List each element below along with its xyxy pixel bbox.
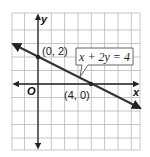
point-a-label: (0, 2) [42,45,68,57]
point-b-label: (4, 0) [64,89,90,101]
coordinate-graph: x + 2y = 4 y x O (0, 2) (4, 0) [0,0,150,157]
y-axis-label: y [40,13,48,25]
x-axis-label: x [132,86,140,98]
point-4-0 [89,82,93,86]
grid [12,13,140,150]
point-0-2 [36,55,40,59]
equation-label: x + 2y = 4 [78,50,130,64]
origin-label: O [27,85,36,97]
